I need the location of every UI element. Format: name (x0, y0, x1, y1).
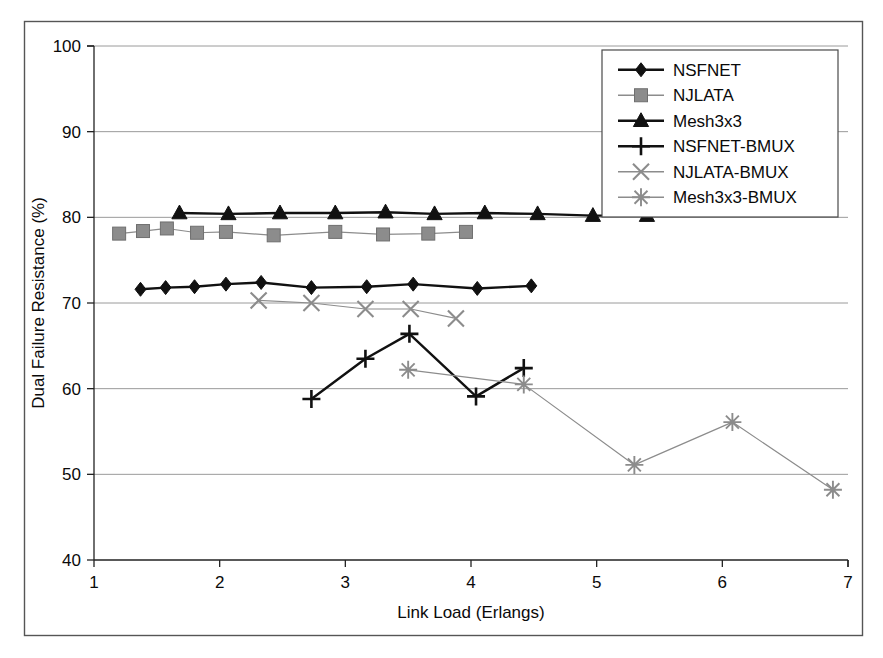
x-tick-label-6: 6 (718, 573, 727, 592)
legend-label-3: NSFNET-BMUX (673, 137, 795, 156)
legend-marker-star-icon (632, 188, 650, 206)
legend-label-4: NJLATA-BMUX (673, 163, 789, 182)
star-marker (625, 456, 643, 474)
y-tick-label-50: 50 (62, 465, 81, 484)
x-axis-title: Link Load (Erlangs) (397, 603, 544, 622)
datapoint-njlata-2 (160, 222, 173, 235)
square-marker (329, 225, 342, 238)
square-marker (635, 89, 648, 102)
dual-failure-resistance-line-chart: 405060708090100 1234567 Dual Failure Res… (0, 0, 883, 658)
x-tick-label-7: 7 (843, 573, 852, 592)
datapoint-njlata-5 (267, 229, 280, 242)
star-marker (515, 375, 533, 393)
y-axis-title: Dual Failure Resistance (%) (29, 197, 48, 409)
datapoint-mesh3x3-bmux-4 (824, 481, 842, 499)
y-tick-label-80: 80 (62, 208, 81, 227)
datapoint-njlata-3 (191, 226, 204, 239)
datapoint-njlata-4 (219, 225, 232, 238)
square-marker (267, 229, 280, 242)
datapoint-mesh3x3-bmux-3 (723, 413, 741, 431)
datapoint-njlata-8 (422, 227, 435, 240)
square-marker (422, 227, 435, 240)
chart-legend: NSFNETNJLATAMesh3x3NSFNET-BMUXNJLATA-BMU… (602, 50, 838, 217)
legend-label-0: NSFNET (673, 61, 741, 80)
datapoint-mesh3x3-bmux-1 (515, 375, 533, 393)
datapoint-njlata-1 (137, 225, 150, 238)
star-marker (723, 413, 741, 431)
y-tick-label-60: 60 (62, 380, 81, 399)
datapoint-njlata-7 (377, 228, 390, 241)
x-tick-label-1: 1 (89, 573, 98, 592)
y-tick-label-90: 90 (62, 123, 81, 142)
legend-marker-square-icon (635, 89, 648, 102)
x-tick-label-2: 2 (215, 573, 224, 592)
x-tick-label-5: 5 (592, 573, 601, 592)
y-tick-label-100: 100 (53, 37, 81, 56)
x-tick-label-4: 4 (466, 573, 475, 592)
square-marker (377, 228, 390, 241)
legend-label-2: Mesh3x3 (673, 112, 742, 131)
datapoint-mesh3x3-bmux-0 (399, 361, 417, 379)
datapoint-njlata-9 (459, 225, 472, 238)
datapoint-njlata-6 (329, 225, 342, 238)
y-tick-label-70: 70 (62, 294, 81, 313)
square-marker (219, 225, 232, 238)
legend-label-5: Mesh3x3-BMUX (673, 188, 797, 207)
square-marker (459, 225, 472, 238)
square-marker (137, 225, 150, 238)
datapoint-njlata-0 (113, 227, 126, 240)
star-marker (824, 481, 842, 499)
square-marker (160, 222, 173, 235)
chart-container: 405060708090100 1234567 Dual Failure Res… (0, 0, 883, 658)
datapoint-mesh3x3-bmux-2 (625, 456, 643, 474)
x-tick-label-3: 3 (341, 573, 350, 592)
y-tick-label-40: 40 (62, 551, 81, 570)
star-marker (632, 188, 650, 206)
star-marker (399, 361, 417, 379)
legend-label-1: NJLATA (673, 86, 734, 105)
square-marker (113, 227, 126, 240)
square-marker (191, 226, 204, 239)
